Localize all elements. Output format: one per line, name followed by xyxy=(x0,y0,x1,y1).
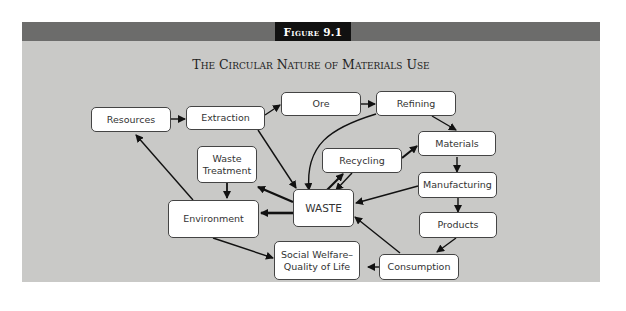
arrow-extraction-waste xyxy=(258,130,296,188)
node-materials: Materials xyxy=(418,131,496,156)
arrow-manufacturing-waste xyxy=(356,186,418,203)
node-extraction: Extraction xyxy=(186,106,265,130)
node-products: Products xyxy=(419,212,497,238)
arrow-recycling-waste xyxy=(336,173,352,190)
arrow-waste-recycling xyxy=(327,174,343,190)
node-waste-treatment: Waste Treatment xyxy=(197,146,257,183)
node-manufacturing: Manufacturing xyxy=(418,172,497,198)
node-recycling: Recycling xyxy=(322,148,402,173)
arrow-environment-social xyxy=(213,238,273,258)
arrow-consumption-waste xyxy=(355,217,400,253)
arrow-products-consumption xyxy=(437,238,456,252)
arrow-refining-materials xyxy=(432,116,456,130)
node-resources: Resources xyxy=(91,107,171,132)
node-social-welfare: Social Welfare– Quality of Life xyxy=(274,241,360,280)
node-refining: Refining xyxy=(376,91,456,116)
node-waste: WASTE xyxy=(293,189,354,227)
arrow-waste-treatment xyxy=(258,187,293,202)
arrow-environment-resources xyxy=(136,135,193,200)
arrow-recycling-materials xyxy=(402,146,417,158)
arrow-extraction-ore xyxy=(265,105,280,115)
node-ore: Ore xyxy=(281,92,361,116)
node-environment: Environment xyxy=(168,200,259,238)
node-consumption: Consumption xyxy=(379,254,459,280)
